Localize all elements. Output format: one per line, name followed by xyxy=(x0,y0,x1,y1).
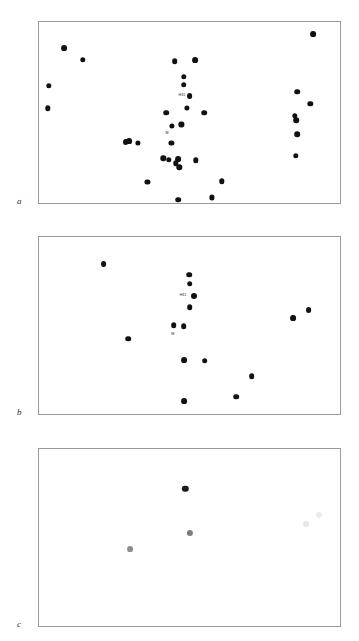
scatter-point xyxy=(181,82,187,88)
scatter-point xyxy=(179,122,184,127)
panel-a-plot-area: H31M xyxy=(39,22,340,203)
scatter-point xyxy=(61,45,67,51)
scatter-point xyxy=(202,358,208,364)
scatter-point xyxy=(249,373,255,379)
scatter-point xyxy=(306,307,312,313)
scatter-point xyxy=(171,322,177,328)
scatter-point xyxy=(80,57,85,62)
scatter-point xyxy=(169,140,174,145)
scatter-point xyxy=(181,398,187,404)
scatter-point xyxy=(303,521,309,527)
scatter-point xyxy=(193,157,198,162)
point-annotation-label: M xyxy=(171,333,174,337)
scatter-point xyxy=(307,101,312,106)
scatter-point xyxy=(176,197,182,203)
scatter-point xyxy=(187,304,193,310)
scatter-point xyxy=(45,106,50,111)
scatter-point xyxy=(172,58,178,64)
panel-b-letter: b xyxy=(17,408,22,417)
scatter-point xyxy=(182,357,188,363)
scatter-point xyxy=(316,512,322,518)
scatter-point xyxy=(233,394,239,400)
point-annotation-label: M xyxy=(166,132,169,136)
scatter-point xyxy=(186,530,192,536)
scatter-point xyxy=(191,293,197,299)
point-annotation-label: H31 xyxy=(180,294,187,298)
scatter-point xyxy=(127,546,133,552)
scatter-point xyxy=(209,195,214,200)
scatter-point xyxy=(294,131,300,137)
scatter-point xyxy=(181,74,186,79)
scatter-point xyxy=(219,179,224,184)
scatter-point xyxy=(101,261,107,267)
panel-b-plot-area: H31M xyxy=(39,237,340,414)
scatter-point xyxy=(181,323,187,329)
scatter-point xyxy=(163,110,169,116)
scatter-point xyxy=(186,272,192,278)
panel-b: H31M xyxy=(38,236,341,415)
scatter-point xyxy=(184,105,189,110)
point-annotation-label: H31 xyxy=(178,94,185,98)
scatter-figure: H31M a H31M b c xyxy=(0,0,359,641)
scatter-point xyxy=(126,138,132,144)
scatter-point xyxy=(166,157,171,162)
scatter-point xyxy=(145,180,150,185)
panel-c-letter: c xyxy=(17,620,21,629)
scatter-point xyxy=(135,140,140,145)
scatter-point xyxy=(177,165,182,170)
scatter-point xyxy=(187,93,193,99)
scatter-point xyxy=(175,156,181,162)
panel-a-letter: a xyxy=(17,197,22,206)
panel-a: H31M xyxy=(38,21,341,204)
scatter-point xyxy=(46,83,51,88)
scatter-point xyxy=(182,486,188,492)
scatter-point xyxy=(126,336,132,342)
scatter-point xyxy=(294,89,300,95)
scatter-point xyxy=(201,110,207,116)
panel-c xyxy=(38,448,341,627)
scatter-point xyxy=(187,281,193,287)
scatter-point xyxy=(192,58,198,64)
panel-c-plot-area xyxy=(39,449,340,626)
scatter-point xyxy=(293,118,299,124)
scatter-point xyxy=(310,31,316,37)
scatter-point xyxy=(293,153,298,158)
scatter-point xyxy=(290,315,296,321)
scatter-point xyxy=(169,124,174,129)
